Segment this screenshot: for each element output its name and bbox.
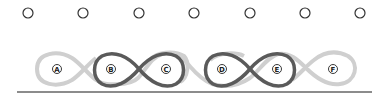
peg-3 bbox=[134, 8, 144, 18]
label-e: E bbox=[273, 65, 282, 74]
peg-1 bbox=[23, 8, 33, 18]
light-loops bbox=[37, 53, 355, 86]
svg-text:D: D bbox=[219, 66, 225, 74]
peg-6 bbox=[300, 8, 310, 18]
peg-2 bbox=[78, 8, 88, 18]
label-b: B bbox=[107, 65, 116, 74]
peg-4 bbox=[189, 8, 199, 18]
label-f: F bbox=[329, 65, 338, 74]
svg-text:B: B bbox=[108, 66, 113, 74]
peg-7 bbox=[355, 8, 365, 18]
svg-text:A: A bbox=[54, 66, 60, 74]
figure-eight-diagram: A B C D E F bbox=[0, 0, 383, 101]
svg-text:F: F bbox=[331, 66, 336, 74]
svg-text:E: E bbox=[275, 66, 280, 74]
peg-row bbox=[23, 8, 365, 18]
peg-5 bbox=[245, 8, 255, 18]
svg-text:C: C bbox=[163, 66, 168, 74]
label-a: A bbox=[53, 65, 62, 74]
label-d: D bbox=[218, 65, 227, 74]
label-c: C bbox=[162, 65, 171, 74]
